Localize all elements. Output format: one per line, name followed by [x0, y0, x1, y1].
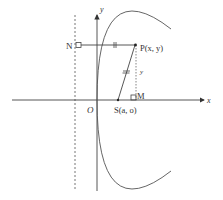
right-angle-M: [131, 95, 136, 100]
x-axis-label: x: [206, 96, 211, 105]
y-axis-label: y: [99, 5, 104, 14]
segment-SP: [118, 45, 135, 100]
point-S: [117, 99, 119, 101]
label-PM-y: y: [139, 68, 144, 76]
parabola-diagram: y x N P(x, y) y M O S(a, o): [0, 0, 223, 200]
label-M: M: [137, 91, 145, 101]
right-angle-N: [76, 43, 81, 48]
label-N: N: [66, 41, 73, 51]
label-origin: O: [87, 105, 94, 115]
label-S: S(a, o): [114, 105, 137, 115]
point-P: [134, 44, 137, 47]
label-P: P(x, y): [140, 43, 163, 53]
